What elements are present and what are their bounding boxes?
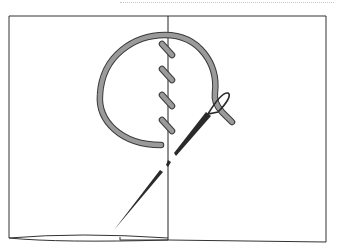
stitch-2 bbox=[162, 69, 172, 80]
stitches bbox=[162, 44, 172, 131]
stitch-4 bbox=[162, 120, 172, 131]
stitch-1 bbox=[162, 44, 172, 55]
fabric-left bbox=[9, 16, 168, 238]
stitch-3 bbox=[162, 95, 172, 106]
stitch-diagram bbox=[0, 0, 337, 250]
needle bbox=[114, 93, 229, 230]
fabric-right bbox=[168, 16, 326, 242]
